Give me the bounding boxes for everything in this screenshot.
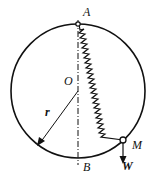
ring-spring-diagram: A O r M B W [0, 0, 153, 191]
label-m: M [131, 138, 143, 152]
label-o: O [64, 74, 73, 88]
label-w: W [122, 159, 134, 173]
mass-ring-m [120, 137, 126, 143]
spring [79, 24, 123, 140]
label-r: r [45, 105, 50, 119]
pivot-a [76, 22, 80, 26]
label-b: B [83, 160, 91, 174]
label-a: A [82, 5, 91, 19]
